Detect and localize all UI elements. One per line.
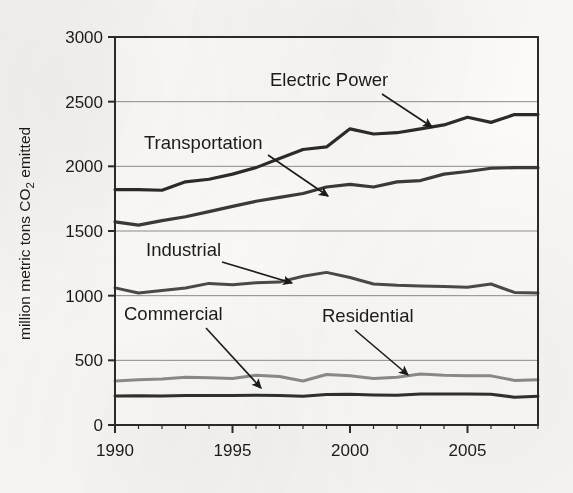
y-tick-label-1500: 1500: [65, 222, 103, 241]
series-annotation-label-residential: Residential: [322, 305, 414, 326]
y-tick-label-3000: 3000: [65, 28, 103, 47]
y-tick-label-2500: 2500: [65, 93, 103, 112]
series-annotation-label-commercial: Commercial: [124, 303, 223, 324]
series-annotation-label-transportation: Transportation: [144, 132, 263, 153]
x-tick-label-1995: 1995: [214, 441, 252, 460]
x-tick-label-1990: 1990: [96, 441, 134, 460]
x-tick-label-2000: 2000: [331, 441, 369, 460]
y-tick-label-500: 500: [75, 351, 103, 370]
y-axis-label-main: million metric tons CO: [16, 188, 33, 340]
co2-emissions-line-chart: million metric tons CO2 emitted 05001000…: [0, 0, 573, 493]
chart-figure: million metric tons CO2 emitted 05001000…: [0, 0, 573, 493]
y-tick-label-2000: 2000: [65, 157, 103, 176]
series-annotation-label-industrial: Industrial: [146, 239, 221, 260]
x-tick-label-2005: 2005: [449, 441, 487, 460]
y-tick-label-1000: 1000: [65, 287, 103, 306]
y-axis-label-tail: emitted: [16, 127, 33, 182]
y-tick-label-0: 0: [94, 416, 103, 435]
series-annotation-label-electric-power: Electric Power: [270, 69, 388, 90]
